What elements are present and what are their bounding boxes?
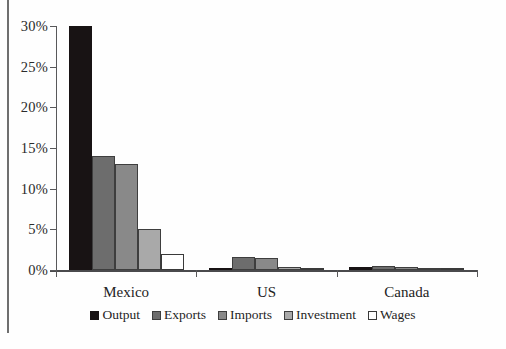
y-tick-label: 10%	[21, 180, 48, 197]
bar-canada-investment	[418, 268, 441, 270]
legend-label: Investment	[296, 307, 356, 323]
bar-group-canada	[349, 26, 464, 270]
category-label-mexico: Mexico	[103, 284, 149, 301]
legend-item-investment[interactable]: Investment	[284, 307, 356, 323]
category-label-canada: Canada	[384, 284, 429, 301]
y-tick-5	[50, 229, 57, 230]
bar-canada-exports	[372, 266, 395, 270]
bar-mexico-exports	[92, 156, 115, 270]
bar-canada-imports	[395, 267, 418, 270]
y-tick-10	[50, 189, 57, 190]
bar-us-exports	[232, 257, 255, 270]
y-tick-20	[50, 107, 57, 108]
y-tick-label: 0%	[28, 262, 48, 279]
bar-canada-output	[349, 267, 372, 270]
legend-label: Wages	[380, 307, 416, 323]
legend-swatch-output-icon	[90, 311, 99, 320]
category-label-us: US	[257, 284, 276, 301]
y-tick-label: 30%	[21, 18, 48, 35]
y-tick-label: 15%	[21, 140, 48, 157]
x-axis-line	[50, 270, 477, 272]
y-tick-25	[50, 67, 57, 68]
y-tick-label: 5%	[28, 221, 48, 238]
y-tick-15	[50, 148, 57, 149]
bar-canada-wages	[441, 268, 464, 270]
legend-swatch-investment-icon	[284, 311, 293, 320]
legend-label: Exports	[164, 307, 206, 323]
legend-item-output[interactable]: Output	[90, 307, 140, 323]
legend-label: Imports	[230, 307, 272, 323]
x-tick	[196, 270, 197, 277]
x-tick	[56, 270, 57, 277]
x-tick	[477, 270, 478, 277]
chart-legend: OutputExportsImportsInvestmentWages	[0, 307, 506, 323]
x-tick	[337, 270, 338, 277]
legend-item-wages[interactable]: Wages	[368, 307, 416, 323]
legend-item-imports[interactable]: Imports	[218, 307, 272, 323]
bar-mexico-wages	[161, 254, 184, 270]
y-tick-label: 20%	[21, 99, 48, 116]
bar-group-mexico	[69, 26, 184, 270]
legend-swatch-wages-icon	[368, 311, 377, 320]
legend-label: Output	[102, 307, 140, 323]
plot-area: 0%5%10%15%20%25%30% MexicoUSCanada	[56, 26, 477, 270]
chart-page: 0%5%10%15%20%25%30% MexicoUSCanada Outpu…	[0, 0, 506, 349]
y-tick-label: 25%	[21, 58, 48, 75]
legend-swatch-exports-icon	[152, 311, 161, 320]
legend-item-exports[interactable]: Exports	[152, 307, 206, 323]
bar-mexico-investment	[138, 229, 161, 270]
y-tick-30	[50, 26, 57, 27]
bar-group-us	[209, 26, 324, 270]
page-edge-artifact	[7, 0, 9, 333]
legend-swatch-imports-icon	[218, 311, 227, 320]
bar-us-wages	[301, 268, 324, 270]
bar-mexico-output	[69, 26, 92, 270]
bar-us-output	[209, 268, 232, 270]
bar-us-investment	[278, 267, 301, 270]
bar-us-imports	[255, 258, 278, 270]
bar-mexico-imports	[115, 164, 138, 270]
